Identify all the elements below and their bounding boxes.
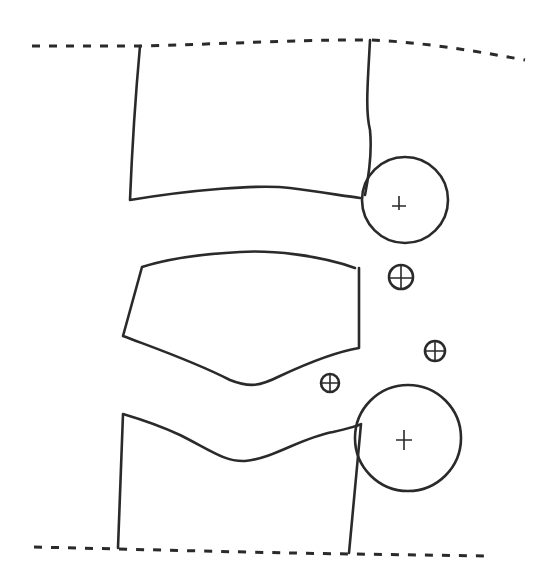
top-boundary-dashed-line xyxy=(32,40,525,60)
middle-block xyxy=(123,252,359,385)
large-circle-upper xyxy=(362,157,448,243)
lower-block xyxy=(118,414,361,553)
bottom-boundary-dashed-line xyxy=(34,547,490,556)
plus-icon xyxy=(392,196,406,210)
diagram-canvas xyxy=(0,0,560,576)
plus-icon xyxy=(396,430,412,450)
large-circle-lower xyxy=(355,385,461,491)
circled-plus-icon xyxy=(425,341,445,361)
upper-block xyxy=(130,40,371,200)
circled-plus-icon xyxy=(321,374,339,392)
circled-plus-icon xyxy=(389,265,413,289)
